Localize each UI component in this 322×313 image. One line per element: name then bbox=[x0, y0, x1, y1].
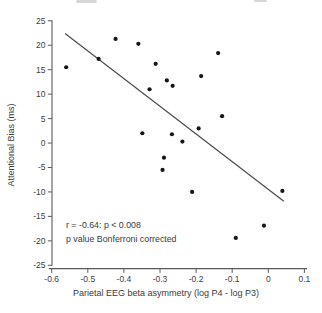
data-point bbox=[220, 114, 224, 118]
x-tick-label: -0.2 bbox=[189, 274, 204, 284]
data-point bbox=[160, 168, 164, 172]
y-tick-label: 5 bbox=[41, 114, 46, 124]
x-tick-label: 0 bbox=[266, 274, 271, 284]
data-point bbox=[170, 132, 174, 136]
y-tick-label: -15 bbox=[33, 211, 46, 221]
y-tick-label: -10 bbox=[33, 187, 46, 197]
data-point bbox=[216, 51, 220, 55]
data-point bbox=[140, 131, 144, 135]
x-tick-label: -0.5 bbox=[80, 274, 95, 284]
y-tick-label: 25 bbox=[36, 16, 46, 26]
x-axis-title: Parietal EEG beta asymmetry (log P4 - lo… bbox=[40, 288, 292, 298]
scatter-chart: 2520151050-5-10-15-20-25-0.6-0.5-0.4-0.3… bbox=[0, 0, 322, 313]
x-tick-label: 0.1 bbox=[298, 274, 310, 284]
data-point bbox=[154, 62, 158, 66]
y-tick-label: -25 bbox=[33, 260, 46, 270]
stats-annotation-line1: r = -0.64: p < 0.008 bbox=[66, 219, 177, 233]
y-tick-label: 15 bbox=[36, 65, 46, 75]
data-point bbox=[171, 84, 175, 88]
y-axis-title: Attentional Bias (ms) bbox=[6, 103, 16, 186]
data-point bbox=[262, 224, 266, 228]
x-tick-label: -0.1 bbox=[225, 274, 240, 284]
data-point bbox=[162, 156, 166, 160]
data-point bbox=[197, 126, 201, 130]
data-point bbox=[165, 78, 169, 82]
x-tick-label: -0.4 bbox=[117, 274, 132, 284]
scatter-figure: 2520151050-5-10-15-20-25-0.6-0.5-0.4-0.3… bbox=[0, 0, 322, 313]
data-point bbox=[280, 189, 284, 193]
data-point bbox=[234, 236, 238, 240]
y-tick-label: -5 bbox=[38, 162, 46, 172]
data-point bbox=[113, 37, 117, 41]
x-tick-label: -0.3 bbox=[153, 274, 168, 284]
data-point bbox=[199, 74, 203, 78]
data-point bbox=[180, 139, 184, 143]
y-tick-label: 20 bbox=[36, 40, 46, 50]
y-tick-label: 10 bbox=[36, 89, 46, 99]
x-tick-label: -0.6 bbox=[44, 274, 59, 284]
data-point bbox=[136, 42, 140, 46]
data-point bbox=[64, 65, 68, 69]
data-point bbox=[190, 190, 194, 194]
stats-annotation-line2: p value Bonferroni corrected bbox=[66, 233, 177, 247]
stats-annotation: r = -0.64: p < 0.008 p value Bonferroni … bbox=[66, 219, 177, 246]
y-tick-label: 0 bbox=[41, 138, 46, 148]
y-tick-label: -20 bbox=[33, 236, 46, 246]
data-point bbox=[147, 87, 151, 91]
data-point bbox=[97, 57, 101, 61]
